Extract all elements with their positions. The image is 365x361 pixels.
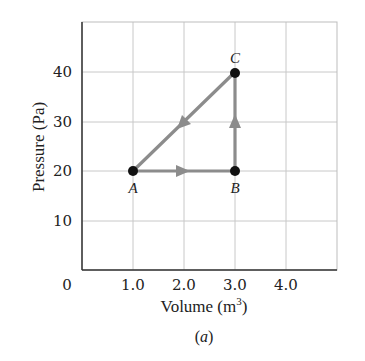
point-a-label: A bbox=[127, 180, 138, 196]
point-b-label: B bbox=[230, 180, 239, 196]
x-tick-3: 3.0 bbox=[223, 276, 247, 294]
pv-diagram: 40 30 20 10 0 1.0 2.0 3.0 4.0 Volume (m3… bbox=[0, 0, 365, 361]
point-b bbox=[230, 166, 240, 176]
point-a bbox=[128, 166, 138, 176]
y-tick-20: 20 bbox=[53, 162, 72, 180]
x-tick-1: 1.0 bbox=[121, 276, 145, 294]
grid bbox=[82, 22, 337, 270]
process-cycle bbox=[133, 72, 241, 177]
y-tick-10: 10 bbox=[53, 212, 72, 230]
y-tick-30: 30 bbox=[53, 113, 72, 131]
x-axis-title: Volume (m3) bbox=[161, 295, 248, 316]
x-tick-4: 4.0 bbox=[274, 276, 298, 294]
x-tick-2: 2.0 bbox=[172, 276, 196, 294]
point-c bbox=[230, 68, 240, 78]
y-axis-title: Pressure (Pa) bbox=[29, 102, 48, 192]
figure-caption: (a) bbox=[195, 328, 214, 346]
point-c-label: C bbox=[230, 50, 241, 66]
plot-frame bbox=[82, 22, 337, 270]
arrow-up-icon bbox=[229, 114, 241, 128]
origin-label: 0 bbox=[62, 276, 72, 294]
y-tick-40: 40 bbox=[53, 63, 72, 81]
arrow-right-icon bbox=[176, 165, 190, 177]
